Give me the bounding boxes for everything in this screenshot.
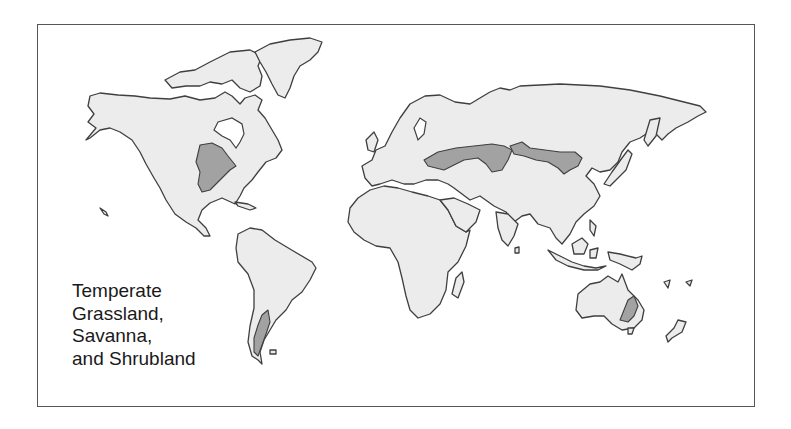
legend-line-4: and Shrubland — [72, 348, 196, 371]
south-america — [236, 228, 316, 364]
british-isles — [366, 132, 378, 152]
tasmania — [628, 328, 634, 334]
legend-line-2: Grassland, — [72, 303, 196, 326]
madagascar — [452, 272, 464, 298]
pacific-islands — [664, 280, 670, 288]
map-legend: Temperate Grassland, Savanna, and Shrubl… — [72, 280, 196, 370]
sri-lanka — [515, 247, 519, 253]
arctic-islands — [165, 50, 262, 92]
falklands — [270, 350, 276, 354]
legend-line-3: Savanna, — [72, 325, 196, 348]
fiji — [686, 280, 692, 286]
north-america — [86, 92, 282, 236]
philippines — [590, 220, 596, 236]
caribbean — [235, 202, 256, 210]
hawaii — [100, 208, 108, 216]
new-guinea — [608, 252, 642, 270]
sulawesi — [590, 248, 598, 258]
new-zealand — [666, 320, 686, 342]
greenland — [255, 38, 322, 98]
legend-line-1: Temperate — [72, 280, 196, 303]
borneo — [572, 238, 588, 254]
